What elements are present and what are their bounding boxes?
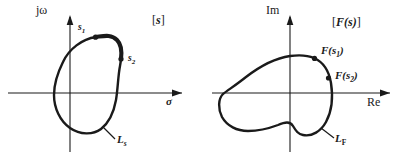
contour-LF-label-base: L	[335, 132, 342, 144]
fs-plane-drawing	[204, 0, 408, 159]
jomega-axis-label: jω	[36, 4, 47, 16]
point-Fs1-label: F(s1)	[321, 45, 344, 59]
contour-Ls-label-base: L	[117, 133, 124, 145]
LF-leader-line	[321, 128, 334, 138]
point-s1-label-sub: 1	[82, 27, 86, 35]
contour-Ls	[54, 36, 121, 134]
point-Fs2-label-base: F(s	[335, 69, 350, 81]
s-plane-label-close: ]	[161, 13, 165, 27]
sigma-axis	[8, 90, 182, 97]
point-Fs2-label-end: )	[354, 69, 358, 81]
point-s1-label: s1	[78, 23, 85, 35]
s-plane-panel: jω σ [s] s1 s2 Ls	[0, 0, 204, 159]
contour-LF-label-sub: F	[342, 138, 347, 147]
sigma-axis-label: σ	[166, 96, 172, 107]
point-Fs2-marker	[326, 75, 331, 80]
point-Fs1-marker	[312, 56, 317, 61]
fs-plane-label-body: F(s)	[336, 15, 357, 29]
point-Fs1-label-base: F(s	[321, 44, 336, 56]
s-plane-drawing	[0, 0, 204, 159]
Ls-leader-line	[103, 127, 115, 139]
contour-Ls-label: Ls	[117, 134, 127, 148]
re-axis-label: Re	[367, 96, 380, 108]
point-Fs1-label-end: )	[340, 44, 344, 56]
mapping-figure: jω σ [s] s1 s2 Ls	[0, 0, 408, 159]
fs-plane-label-close: ]	[357, 15, 361, 29]
point-Fs2-label: F(s2)	[335, 70, 358, 84]
re-axis	[212, 90, 390, 97]
contour-LF-label: LF	[335, 133, 346, 147]
s-plane-label: [s]	[152, 14, 165, 26]
point-s1-marker	[93, 35, 98, 40]
point-s2-label: s2	[128, 54, 135, 66]
im-axis-label: Im	[266, 4, 279, 16]
fs-plane-panel: Im Re [F(s)] F(s1) F(s2) LF	[204, 0, 408, 159]
contour-Ls-label-sub: s	[124, 139, 127, 148]
fs-plane-label: [F(s)]	[332, 16, 361, 28]
contour-LF	[219, 55, 332, 135]
jomega-axis	[67, 15, 74, 152]
point-s2-label-sub: 2	[132, 58, 136, 66]
im-axis	[287, 15, 294, 152]
point-s2-marker	[118, 56, 123, 61]
